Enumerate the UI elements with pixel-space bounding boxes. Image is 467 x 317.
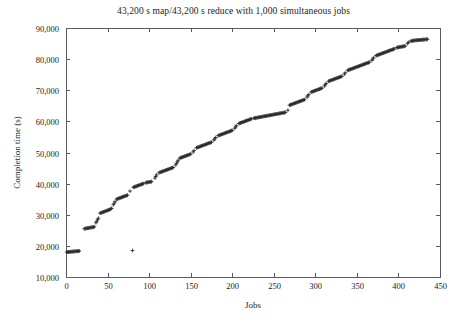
- x-tick-label: 250: [268, 281, 281, 291]
- data-markers: [65, 37, 430, 254]
- x-tick-label: 400: [392, 281, 405, 291]
- scatter-plot: 10,00020,00030,00040,00050,00060,00070,0…: [0, 0, 467, 317]
- plot-axes: [67, 29, 441, 278]
- x-tick-label: 150: [185, 281, 198, 291]
- y-tick-label: 30,000: [36, 211, 59, 221]
- x-tick-label: 450: [434, 281, 447, 291]
- x-tick-label: 0: [64, 281, 68, 291]
- y-tick-label: 90,000: [36, 24, 59, 34]
- x-tick-label: 50: [104, 281, 113, 291]
- y-tick-label: 10,000: [36, 273, 59, 283]
- y-tick-label: 80,000: [36, 55, 59, 65]
- chart-figure: 43,200 s map/43,200 s reduce with 1,000 …: [0, 0, 467, 317]
- x-tick-label: 350: [351, 281, 364, 291]
- x-tick-labels: 050100150200250300350400450: [64, 281, 447, 291]
- y-tick-label: 60,000: [36, 117, 59, 127]
- x-axis-title: Jobs: [245, 300, 262, 310]
- x-tick-label: 200: [226, 281, 239, 291]
- y-tick-label: 20,000: [36, 242, 59, 252]
- y-tick-label: 70,000: [36, 86, 59, 96]
- y-tick-label: 50,000: [36, 149, 59, 159]
- y-tick-label: 40,000: [36, 180, 59, 190]
- x-tick-label: 300: [309, 281, 322, 291]
- x-tick-label: 100: [143, 281, 156, 291]
- y-axis-title: Completion time (s): [12, 116, 22, 189]
- y-tick-labels: 10,00020,00030,00040,00050,00060,00070,0…: [36, 24, 59, 283]
- axis-ticks: [66, 28, 441, 278]
- data-series-markers: [65, 37, 430, 254]
